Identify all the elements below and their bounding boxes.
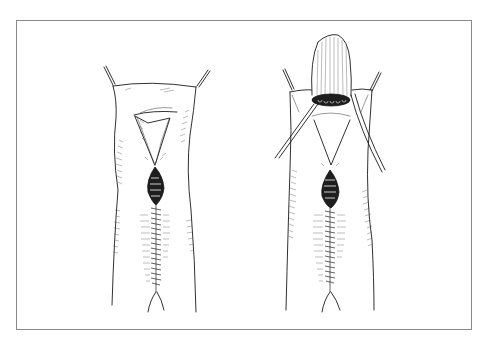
left-panel <box>104 66 210 312</box>
surgical-illustration <box>0 0 484 339</box>
right-panel <box>275 35 385 312</box>
